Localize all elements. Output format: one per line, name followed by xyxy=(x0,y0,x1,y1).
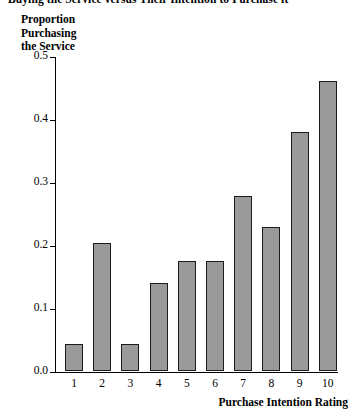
y-axis-title-line-3: the Service xyxy=(21,40,76,54)
y-axis-tick-mark xyxy=(50,120,56,121)
x-axis-tick-label: 10 xyxy=(315,377,341,389)
x-axis-tick-label: 6 xyxy=(202,377,228,389)
x-axis-tick-label: 8 xyxy=(258,377,284,389)
y-axis-line xyxy=(55,57,56,373)
bar xyxy=(121,344,139,371)
y-axis-tick-mark xyxy=(50,372,56,373)
plot-area: 0.50.40.30.20.10.0 12345678910 xyxy=(55,57,338,372)
y-axis-title-line-2: Purchasing xyxy=(21,27,76,41)
y-axis-tick-mark xyxy=(50,57,56,58)
x-axis-tick-label: 9 xyxy=(287,377,313,389)
y-axis-tick-label: 0.4 xyxy=(34,112,48,124)
y-axis-tick-label: 0.0 xyxy=(34,364,48,376)
bar xyxy=(262,227,280,371)
x-axis-tick-label: 1 xyxy=(61,377,87,389)
x-axis-tick-label: 4 xyxy=(146,377,172,389)
x-axis-line xyxy=(55,372,338,373)
x-axis-tick-label: 5 xyxy=(174,377,200,389)
bar xyxy=(178,261,196,371)
bar xyxy=(93,243,111,371)
bar xyxy=(206,261,224,371)
y-axis-tick-label: 0.5 xyxy=(34,49,48,61)
y-axis-tick-label: 0.3 xyxy=(34,175,48,187)
y-axis-tick-label: 0.2 xyxy=(34,238,48,250)
x-axis-tick-label: 3 xyxy=(117,377,143,389)
x-axis-tick-label: 7 xyxy=(230,377,256,389)
chart-title: Buying the Service versus Their Intentio… xyxy=(8,0,353,6)
bar xyxy=(150,283,168,371)
y-axis-tick-mark xyxy=(50,309,56,310)
bar xyxy=(234,196,252,371)
x-axis-title: Purchase Intention Rating xyxy=(219,396,349,408)
y-axis-title: Proportion Purchasing the Service xyxy=(21,13,76,54)
y-axis-tick-label: 0.1 xyxy=(34,301,48,313)
bar xyxy=(319,81,337,371)
x-axis-tick-label: 2 xyxy=(89,377,115,389)
bar xyxy=(65,344,83,371)
bar xyxy=(291,132,309,371)
y-axis-title-line-1: Proportion xyxy=(21,13,76,27)
y-axis-tick-mark xyxy=(50,183,56,184)
y-axis-tick-mark xyxy=(50,246,56,247)
